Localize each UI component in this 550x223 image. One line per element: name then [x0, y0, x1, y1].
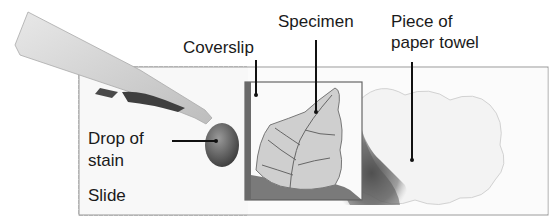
- label-drop-line1: Drop of: [88, 129, 144, 149]
- label-specimen: Specimen: [278, 12, 354, 32]
- label-slide: Slide: [88, 186, 126, 206]
- label-paper-towel-line1: Piece of: [391, 12, 452, 32]
- label-coverslip: Coverslip: [183, 38, 254, 58]
- label-paper-towel-line2: paper towel: [391, 33, 479, 53]
- stain-drop: [205, 123, 239, 167]
- label-drop-line2: stain: [88, 151, 124, 171]
